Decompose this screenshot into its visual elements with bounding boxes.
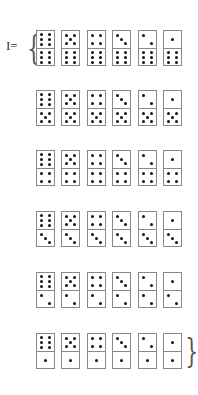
domino-top-half-6 (37, 91, 54, 108)
pip (40, 112, 43, 115)
domino-top-half-1 (164, 91, 181, 108)
domino-bottom-half-1 (113, 351, 130, 369)
pip (40, 33, 43, 36)
pip (48, 153, 51, 156)
pip (116, 294, 119, 297)
pip (40, 280, 43, 283)
domino-1-3 (163, 211, 182, 247)
pip (73, 61, 76, 64)
pip (150, 162, 153, 165)
pip (124, 302, 127, 305)
pip (116, 51, 119, 54)
domino-top-half-4 (88, 91, 105, 108)
domino-row (36, 30, 186, 67)
pip (116, 61, 119, 64)
pip (40, 98, 43, 101)
pip (40, 219, 43, 222)
pip (65, 215, 68, 218)
pip (167, 56, 170, 59)
pip (99, 223, 102, 226)
pip (65, 154, 68, 157)
pip (48, 341, 51, 344)
pip (65, 120, 68, 123)
domino-1-5 (163, 90, 182, 126)
pip (120, 359, 123, 362)
domino-4-5 (87, 90, 106, 126)
pip (150, 102, 153, 105)
domino-bottom-half-1 (37, 351, 54, 369)
pip (120, 219, 123, 222)
pip (116, 276, 119, 279)
domino-bottom-half-2 (62, 290, 79, 308)
pip (124, 284, 127, 287)
pip (99, 172, 102, 175)
domino-6-1 (36, 333, 55, 369)
domino-bottom-half-4 (88, 168, 105, 186)
pip (99, 162, 102, 165)
pip (48, 241, 51, 244)
pip (48, 172, 51, 175)
domino-top-half-2 (139, 273, 156, 290)
pip (95, 237, 98, 240)
pip (120, 38, 123, 41)
domino-top-half-4 (88, 31, 105, 48)
domino-top-half-1 (164, 151, 181, 168)
pip (142, 51, 145, 54)
pip (91, 120, 94, 123)
domino-2-6 (138, 30, 157, 66)
pip (142, 56, 145, 59)
domino-top-half-5 (62, 91, 79, 108)
pip (124, 102, 127, 105)
pip (73, 51, 76, 54)
pip (40, 285, 43, 288)
domino-bottom-half-4 (62, 168, 79, 186)
pip (99, 112, 102, 115)
pip (48, 180, 51, 183)
pip (73, 337, 76, 340)
domino-top-half-1 (164, 334, 181, 351)
pip (99, 241, 102, 244)
pip (91, 112, 94, 115)
domino-top-half-5 (62, 151, 79, 168)
domino-top-half-2 (139, 212, 156, 229)
pip (65, 345, 68, 348)
domino-2-4 (138, 150, 157, 186)
domino-bottom-half-6 (164, 48, 181, 66)
pip (124, 241, 127, 244)
domino-bottom-half-6 (37, 48, 54, 66)
pip (99, 215, 102, 218)
domino-5-2 (61, 272, 80, 308)
pip (171, 98, 174, 101)
pip (146, 116, 149, 119)
pip (48, 275, 51, 278)
pip (91, 215, 94, 218)
pip (40, 43, 43, 46)
domino-bottom-half-1 (88, 351, 105, 369)
pip (175, 172, 178, 175)
pip (120, 158, 123, 161)
pip (116, 112, 119, 115)
pip (167, 51, 170, 54)
pip (116, 180, 119, 183)
pip (91, 61, 94, 64)
pip (150, 302, 153, 305)
pip (91, 223, 94, 226)
pip (99, 42, 102, 45)
pip (73, 56, 76, 59)
pip (48, 120, 51, 123)
pip (73, 172, 76, 175)
pip (95, 359, 98, 362)
pip (73, 94, 76, 97)
pip (142, 276, 145, 279)
pip (73, 112, 76, 115)
domino-top-half-2 (139, 151, 156, 168)
pip (40, 153, 43, 156)
domino-6-6 (36, 30, 55, 66)
pip (171, 280, 174, 283)
pip (142, 180, 145, 183)
domino-top-half-6 (37, 212, 54, 229)
pip (73, 102, 76, 105)
domino-bottom-half-1 (139, 351, 156, 369)
pip (48, 51, 51, 54)
domino-5-3 (61, 211, 80, 247)
